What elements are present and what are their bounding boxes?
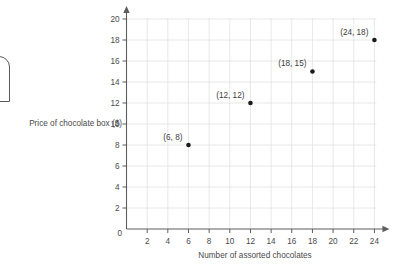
chart-canvas: Price of chocolate box ($) Number of ass… <box>0 0 396 273</box>
x-tick-label: 2 <box>145 237 150 246</box>
gridlines <box>127 18 377 229</box>
y-tick-label: 6 <box>115 162 120 171</box>
x-tick-label: 4 <box>166 237 171 246</box>
x-axis-arrow-icon <box>382 226 389 232</box>
data-point-label: (6, 8) <box>163 133 182 142</box>
x-tick-label: 0 <box>117 229 122 238</box>
data-point <box>186 143 191 148</box>
y-tick-label: 12 <box>110 99 120 108</box>
y-tick-label: 10 <box>110 120 120 129</box>
x-tick-label: 22 <box>349 237 359 246</box>
data-point <box>310 69 315 74</box>
data-point-label: (24, 18) <box>340 28 368 37</box>
x-tick-label: 20 <box>329 237 339 246</box>
y-axis-arrow-icon <box>123 6 129 13</box>
data-point-label: (18, 15) <box>278 59 306 68</box>
y-tick-label: 18 <box>110 36 120 45</box>
y-tick-label: 2 <box>115 204 120 213</box>
y-tick-label: 14 <box>110 78 120 87</box>
x-tick-label: 16 <box>287 237 297 246</box>
data-point-label: (12, 12) <box>216 91 244 100</box>
y-tick-label: 8 <box>115 141 120 150</box>
y-tick-label: 4 <box>115 183 120 192</box>
data-point <box>372 38 377 43</box>
x-tick-label: 14 <box>267 237 277 246</box>
x-tick-label: 8 <box>207 237 212 246</box>
scatter-plot: 0246810121416182022242468101214161820 (6… <box>0 0 396 273</box>
y-tick-label: 16 <box>110 57 120 66</box>
x-tick-label: 18 <box>308 237 318 246</box>
x-tick-label: 12 <box>246 237 256 246</box>
y-tick-label: 20 <box>110 15 120 24</box>
x-tick-label: 10 <box>225 237 235 246</box>
data-points: (6, 8)(12, 12)(18, 15)(24, 18) <box>163 28 376 148</box>
x-tick-label: 24 <box>370 237 380 246</box>
data-point <box>248 101 253 106</box>
axis-tick-labels: 0246810121416182022242468101214161820 <box>110 15 379 246</box>
x-tick-label: 6 <box>186 237 191 246</box>
